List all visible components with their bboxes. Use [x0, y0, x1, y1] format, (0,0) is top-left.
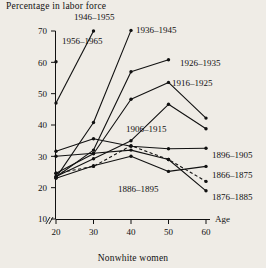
data-point: [167, 58, 170, 61]
data-point: [54, 150, 57, 153]
chart-series-group: [54, 29, 207, 193]
series-label: 1936–1945: [136, 25, 177, 35]
data-point: [92, 164, 95, 167]
data-point: [92, 157, 95, 160]
data-point: [129, 148, 132, 151]
data-point: [129, 144, 132, 147]
y-tick-label: 60: [38, 58, 48, 68]
x-tick-label: 30: [89, 227, 99, 237]
x-tick-label: 20: [52, 227, 62, 237]
series-label: 1956–1965: [62, 36, 103, 46]
y-tick-label: 20: [38, 183, 48, 193]
data-point: [129, 29, 132, 32]
chart-footer-caption: Nonwhite women: [0, 253, 266, 263]
data-point: [92, 137, 95, 140]
y-tick-label: 40: [38, 120, 48, 130]
data-point: [204, 147, 207, 150]
data-point: [167, 147, 170, 150]
data-point: [204, 189, 207, 192]
series-label: 1926–1935: [180, 58, 221, 68]
data-point: [167, 103, 170, 106]
data-point: [54, 60, 57, 63]
y-tick-label: 30: [38, 152, 48, 162]
data-point: [204, 180, 207, 183]
series-label: 1886–1895: [118, 184, 159, 194]
data-point: [92, 152, 95, 155]
data-point: [204, 116, 207, 119]
data-point: [92, 121, 95, 124]
y-tick-label: 70: [38, 26, 48, 36]
series-label: 1906–1915: [126, 124, 167, 134]
data-point: [204, 127, 207, 130]
data-point: [129, 70, 132, 73]
series-label: 1896–1905: [212, 150, 253, 160]
x-axis-title: Age: [215, 214, 230, 224]
data-point: [54, 177, 57, 180]
data-point: [54, 101, 57, 104]
data-point: [54, 172, 57, 175]
data-point: [167, 170, 170, 173]
series-label: 1916–1925: [172, 78, 213, 88]
data-point: [167, 158, 170, 161]
data-point: [204, 165, 207, 168]
data-point: [92, 29, 95, 32]
x-tick-label: 40: [127, 227, 137, 237]
series-label: 1866–1875: [212, 170, 253, 180]
series-1: [54, 60, 57, 63]
chart-figure: Percentage in labor force 10203040506070…: [0, 0, 266, 268]
axis-break-mark: [46, 217, 53, 224]
data-point: [167, 81, 170, 84]
series-path: [56, 156, 206, 178]
x-tick-label: 60: [202, 227, 212, 237]
data-point: [54, 155, 57, 158]
data-point: [129, 155, 132, 158]
series-label: 1876–1885: [212, 192, 253, 202]
chart-canvas: 102030405060702030405060Age 1956–1965194…: [0, 0, 266, 268]
data-point: [129, 98, 132, 101]
series-10: [54, 155, 207, 180]
series-6: [54, 103, 207, 178]
series-3: [54, 29, 132, 180]
chart-series-labels: 1956–19651946–19551936–19451926–19351916…: [62, 12, 253, 202]
y-tick-label: 50: [38, 89, 48, 99]
y-tick-label: 10: [38, 214, 48, 224]
series-label: 1946–1955: [74, 12, 115, 22]
data-point: [129, 139, 132, 142]
x-tick-label: 50: [164, 227, 174, 237]
